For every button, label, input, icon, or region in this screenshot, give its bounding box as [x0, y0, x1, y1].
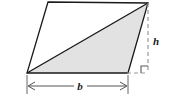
base-label: b [77, 80, 83, 92]
geometry-figure: h b [0, 0, 169, 101]
height-label: h [153, 35, 159, 47]
right-angle-marker [141, 66, 148, 73]
parallelogram-diagram-canvas: h b [0, 0, 169, 101]
